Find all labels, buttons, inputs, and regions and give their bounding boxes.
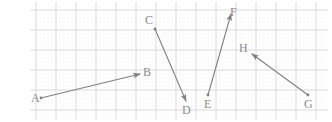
point-label-c: C xyxy=(145,14,153,26)
vector-tail-dot-g xyxy=(307,94,310,97)
point-label-g: G xyxy=(304,98,313,110)
point-label-b: B xyxy=(143,66,151,78)
point-label-a: A xyxy=(31,92,40,104)
vector-diagram-figure: ABCDEFGH xyxy=(0,0,332,122)
vector-g-to-h xyxy=(252,54,308,95)
vector-tail-dot-a xyxy=(40,97,43,100)
point-label-h: H xyxy=(239,42,248,54)
point-label-e: E xyxy=(204,98,211,110)
grid-major-lines xyxy=(30,2,328,120)
vector-tail-dot-c xyxy=(154,28,157,31)
point-label-f: F xyxy=(230,6,237,18)
vector-tail-dot-e xyxy=(207,94,210,97)
vector-diagram-canvas xyxy=(0,0,332,122)
point-label-d: D xyxy=(182,104,191,116)
